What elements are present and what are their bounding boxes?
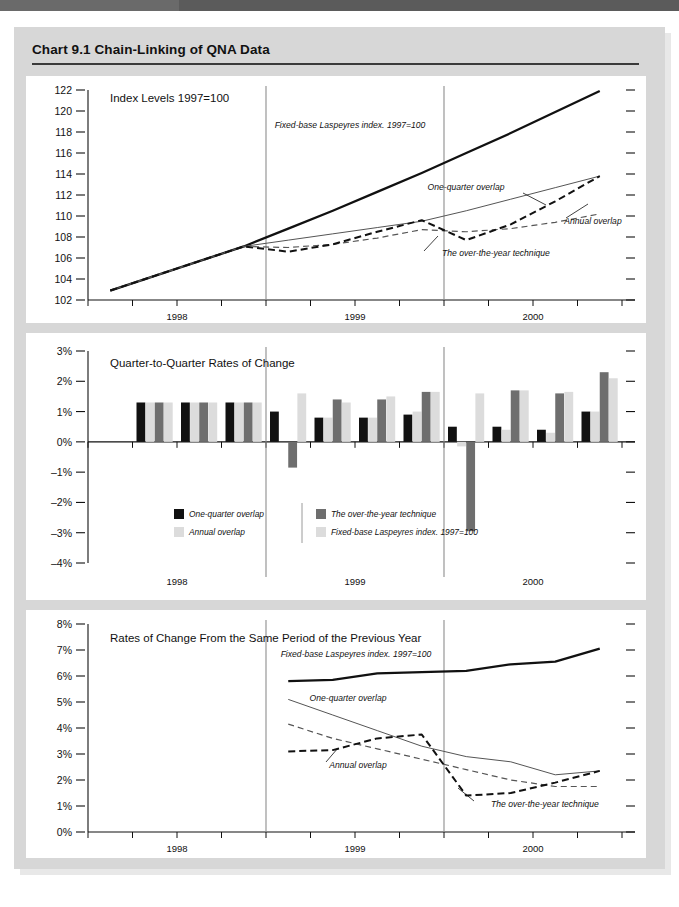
- y-tick-label: –2%: [51, 496, 72, 508]
- panel-title: Index Levels 1997=100: [110, 92, 229, 104]
- bar: [546, 433, 555, 442]
- bar: [377, 399, 386, 441]
- page-title: Chart 9.1 Chain-Linking of QNA Data: [32, 42, 270, 57]
- bar: [466, 442, 475, 531]
- bar: [226, 402, 235, 441]
- panel-title: Quarter-to-Quarter Rates of Change: [110, 357, 295, 369]
- title-rule: [32, 63, 639, 65]
- y-tick-label: 114: [55, 168, 72, 180]
- bar: [244, 402, 253, 441]
- annotation-one-quarter: One-quarter overlap: [310, 693, 387, 703]
- bar: [404, 415, 413, 442]
- bar: [164, 402, 173, 441]
- frame-shadow-bottom: [20, 869, 671, 875]
- bar: [520, 390, 529, 441]
- bar: [190, 402, 199, 441]
- y-tick-label: 112: [55, 189, 72, 201]
- bar: [146, 402, 155, 441]
- y-tick-label: 3%: [57, 748, 72, 760]
- bar: [386, 396, 395, 441]
- y-tick-label: 6%: [57, 670, 72, 682]
- x-tick-label: 1998: [166, 576, 187, 587]
- leader-line: [458, 788, 474, 801]
- legend-label-annual: Annual overlap: [188, 527, 245, 537]
- x-tick-label: 1998: [166, 843, 187, 854]
- bar: [475, 393, 484, 441]
- bar: [413, 412, 422, 442]
- y-tick-label: 106: [54, 252, 72, 264]
- x-tick-label: 1999: [344, 311, 365, 322]
- y-tick-label: 120: [54, 105, 72, 117]
- bar: [288, 442, 297, 468]
- bar: [270, 412, 279, 442]
- page-header-band: [179, 0, 679, 11]
- panel-yoy-rates: 0%1%2%3%4%5%6%7%8%199819992000Rates of C…: [26, 610, 646, 858]
- y-tick-label: 1%: [57, 406, 72, 418]
- bar: [324, 418, 333, 442]
- bar: [155, 402, 164, 441]
- y-tick-label: 0%: [57, 436, 72, 448]
- y-tick-label: –3%: [51, 527, 72, 539]
- bar: [600, 372, 609, 442]
- annotation-annual: Annual overlap: [328, 760, 387, 770]
- x-tick-label: 1999: [344, 576, 365, 587]
- x-tick-label: 1998: [166, 311, 187, 322]
- page-header-band-left: [0, 0, 182, 11]
- annotation-over-the-year: The over-the-year technique: [442, 248, 550, 258]
- bar: [199, 402, 208, 441]
- bar: [333, 399, 342, 441]
- y-tick-label: 8%: [57, 618, 72, 630]
- bar: [297, 393, 306, 441]
- bar: [368, 418, 377, 442]
- yoy-rates-plot: 0%1%2%3%4%5%6%7%8%199819992000Rates of C…: [26, 610, 646, 858]
- series-line: [110, 176, 600, 290]
- bar: [582, 412, 591, 442]
- bar: [493, 427, 502, 442]
- annotation-one-quarter: One-quarter overlap: [428, 182, 505, 192]
- y-tick-label: 116: [55, 147, 72, 159]
- legend-swatch-over-the-year: [316, 509, 326, 519]
- bar: [208, 402, 217, 441]
- y-tick-label: –1%: [51, 466, 72, 478]
- bar: [564, 392, 573, 442]
- annotation-fixed-base: Fixed-base Laspeyres index. 1997=100: [281, 649, 432, 659]
- y-tick-label: 104: [54, 273, 72, 285]
- y-tick-label: 108: [54, 231, 72, 243]
- index-levels-plot: 1021041061081101121141161181201221998199…: [26, 76, 646, 323]
- series-line: [110, 176, 600, 290]
- x-tick-label: 1999: [344, 843, 365, 854]
- bar: [181, 402, 190, 441]
- x-tick-label: 2000: [522, 576, 543, 587]
- annotation-annual: Annual overlap: [563, 216, 622, 226]
- bar: [359, 418, 368, 442]
- bar: [457, 442, 466, 447]
- annotation-fixed-base: Fixed-base Laspeyres index. 1997=100: [275, 120, 426, 130]
- y-tick-label: 110: [55, 210, 72, 222]
- bar: [502, 430, 511, 442]
- y-tick-label: 102: [54, 294, 72, 306]
- bar: [609, 378, 618, 442]
- legend-swatch-one-quarter: [174, 509, 184, 519]
- y-tick-label: 2%: [57, 774, 72, 786]
- frame-shadow-right: [665, 33, 671, 871]
- chart-title-bar: Chart 9.1 Chain-Linking of QNA Data: [32, 40, 648, 58]
- legend-label-one-quarter: One-quarter overlap: [189, 509, 264, 519]
- bar: [448, 427, 457, 442]
- y-tick-label: 5%: [57, 696, 72, 708]
- bar: [537, 430, 546, 442]
- y-tick-label: 1%: [57, 800, 72, 812]
- bar: [315, 418, 324, 442]
- legend-label-fixed-base: Fixed-base Laspeyres index. 1997=100: [331, 527, 478, 537]
- bar: [431, 392, 440, 442]
- leader-line: [523, 193, 546, 205]
- legend-label-over-the-year: The over-the-year technique: [331, 509, 436, 519]
- leader-line: [424, 236, 438, 251]
- bar: [137, 402, 146, 441]
- panel-index-levels: 1021041061081101121141161181201221998199…: [26, 76, 646, 323]
- panel-qoq-rates: –4%–3%–2%–1%0%1%2%3%199819992000Quarter-…: [26, 333, 646, 600]
- y-tick-label: 118: [55, 126, 72, 138]
- bar: [591, 412, 600, 442]
- bar: [511, 390, 520, 441]
- bar: [422, 392, 431, 442]
- bar: [342, 402, 351, 441]
